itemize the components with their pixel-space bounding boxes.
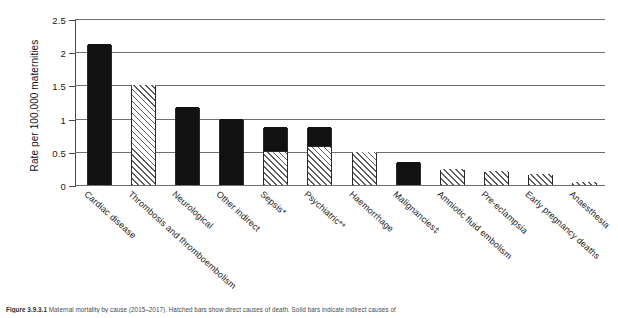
bar-segment-solid	[308, 127, 331, 147]
bar-segment-hatch	[441, 169, 464, 185]
bar-segment-solid	[220, 119, 243, 185]
x-axis-baseline	[75, 185, 605, 186]
y-axis-title: Rate per 100,000 maternities	[29, 31, 40, 181]
y-tick-label: 2.5	[52, 15, 66, 26]
plot-area	[75, 20, 605, 186]
bar-segment-hatch	[308, 147, 331, 185]
caption-figure-number: Figure 3.9.3.1	[6, 306, 47, 313]
x-axis-labels: Cardiac diseaseThrombosis and thromboemb…	[75, 189, 605, 294]
bar[interactable]	[440, 170, 465, 186]
bar-segment-solid	[88, 44, 111, 185]
y-tick-label: 0	[61, 181, 66, 192]
bar[interactable]	[131, 86, 156, 186]
bar-segment-hatch	[529, 174, 552, 185]
x-axis-label: Early pregnancy deaths	[524, 189, 603, 261]
bar[interactable]	[219, 120, 244, 186]
bar-segment-hatch	[132, 85, 155, 185]
bar-segment-solid	[264, 127, 287, 152]
bar-segment-divider	[264, 151, 287, 152]
x-axis-label: Haemorrhage	[347, 189, 395, 234]
bar[interactable]	[352, 153, 377, 186]
y-tick-label: 1.5	[52, 81, 66, 92]
caption-text: Maternal mortality by cause (2015–2017).…	[49, 306, 396, 313]
bar-segment-divider	[308, 146, 331, 147]
bar[interactable]	[263, 128, 288, 186]
y-axis-ticks: 00.511.522.5	[46, 20, 75, 186]
figure-caption: Figure 3.9.3.1 Maternal mortality by cau…	[6, 306, 614, 313]
figure-maternal-mortality-by-cause: Rate per 100,000 maternities 00.511.522.…	[0, 0, 618, 318]
bar-segment-solid	[176, 107, 199, 185]
x-axis-label: Sepsis*	[259, 189, 289, 217]
x-axis-label: Psychiatric**	[303, 189, 348, 231]
x-axis-label: Amniotic fluid embolism	[435, 189, 514, 261]
bar-segment-hatch	[264, 152, 287, 185]
gridline	[75, 19, 605, 20]
bar-segment-hatch	[353, 152, 376, 185]
x-axis-label: Neurological	[170, 189, 215, 231]
x-axis-label: Other indirect	[214, 189, 262, 234]
y-tick-label: 2	[61, 48, 66, 59]
x-axis-label: Anaesthesia	[568, 189, 612, 230]
bar-segment-solid	[397, 162, 420, 185]
bar[interactable]	[87, 45, 112, 186]
bar[interactable]	[175, 108, 200, 186]
bar[interactable]	[396, 163, 421, 186]
bar[interactable]	[307, 128, 332, 186]
y-tick-label: 1	[61, 114, 66, 125]
y-tick-label: 0.5	[52, 147, 66, 158]
gridline	[75, 52, 605, 53]
bar-segment-hatch	[485, 171, 508, 185]
